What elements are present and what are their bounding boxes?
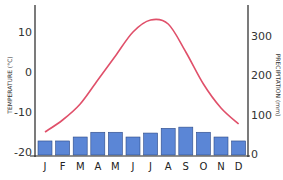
precipitation-bar (161, 128, 175, 155)
month-label: A (94, 161, 101, 172)
left-axis-label: TEMPERATURE (°C) (6, 56, 13, 114)
precipitation-bar (91, 132, 105, 155)
month-label: J (43, 161, 47, 172)
right-ticks: 3002001000 (251, 30, 272, 162)
month-label: O (199, 161, 207, 172)
month-labels: JFMAMJJASOND (43, 161, 243, 172)
month-label: F (60, 161, 66, 172)
precipitation-bar (56, 141, 70, 155)
right-tick-label: 100 (251, 109, 272, 122)
left-tick-label: 0 (25, 66, 32, 79)
climate-chart: 100-10-20 3002001000 JFMAMJJASOND TEMPER… (0, 0, 283, 180)
left-tick-label: -10 (14, 106, 32, 119)
month-label: A (165, 161, 172, 172)
month-label: M (111, 161, 120, 172)
precipitation-bar (73, 137, 87, 155)
month-label: S (183, 161, 189, 172)
right-tick-label: 300 (251, 30, 272, 43)
left-tick-label: 10 (18, 26, 32, 39)
precipitation-bar (214, 137, 228, 155)
precipitation-bar (232, 141, 246, 155)
month-label: M (76, 161, 85, 172)
month-label: J (148, 161, 152, 172)
month-label: N (217, 161, 224, 172)
precipitation-bar (179, 127, 193, 155)
left-tick-label: -20 (14, 146, 32, 159)
precipitation-bar (108, 132, 122, 155)
right-axis-label: PRECIPITATION (mm) (275, 54, 282, 117)
precipitation-bar (196, 132, 210, 155)
month-label: D (235, 161, 243, 172)
right-tick-label: 0 (251, 148, 258, 161)
precipitation-bars (38, 127, 246, 155)
precipitation-bar (144, 133, 158, 155)
precipitation-bar (38, 141, 52, 155)
left-ticks: 100-10-20 (14, 26, 32, 159)
right-tick-label: 200 (251, 69, 272, 82)
temperature-line (45, 19, 239, 132)
precipitation-bar (126, 137, 140, 155)
month-label: J (131, 161, 135, 172)
